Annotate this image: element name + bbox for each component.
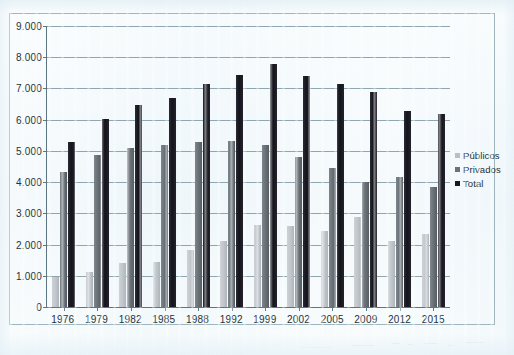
x-tick-mark	[64, 307, 65, 311]
bar-publicos	[52, 277, 59, 307]
bar-privados	[396, 177, 403, 307]
x-axis-tick-label: 1999	[248, 314, 282, 325]
bar-total	[203, 84, 210, 307]
x-axis-tick-label: 2012	[383, 314, 417, 325]
y-axis-tick-label: 3.000	[16, 208, 42, 219]
bar-group	[282, 26, 316, 307]
bar-privados	[94, 155, 101, 307]
bar-group	[349, 26, 383, 307]
bar-privados	[295, 157, 302, 308]
y-axis-tick-label: 4.000	[16, 177, 42, 188]
bar-total	[303, 76, 310, 307]
bar-group	[114, 26, 148, 307]
bar-publicos	[86, 272, 93, 307]
grouped-bar-chart: 9.0008.0007.0006.0005.0004.0003.0002.000…	[0, 0, 514, 355]
bar-group	[148, 26, 182, 307]
x-axis-tick-label: 2009	[349, 314, 383, 325]
gridline	[47, 307, 450, 308]
scan-artifact	[448, 345, 455, 346]
y-axis-tick-label: 2.000	[16, 239, 42, 250]
bar-privados	[127, 148, 134, 307]
y-axis-tick-label: 7.000	[16, 83, 42, 94]
x-tick-mark	[165, 307, 166, 311]
y-axis-tick-label: 0	[36, 302, 42, 313]
y-tick-mark	[43, 307, 47, 308]
y-axis-tick-label: 8.000	[16, 52, 42, 63]
legend-swatch-icon	[455, 153, 460, 158]
bar-total	[68, 142, 75, 307]
y-axis-tick-label: 1.000	[16, 270, 42, 281]
bar-privados	[228, 141, 235, 307]
x-tick-mark	[232, 307, 233, 311]
bar-total	[169, 98, 176, 307]
x-tick-mark	[332, 307, 333, 311]
legend-item-publicos[interactable]: Públicos	[455, 148, 511, 162]
bar-group	[215, 26, 249, 307]
legend-item-total[interactable]: Total	[455, 176, 511, 190]
bar-publicos	[388, 241, 395, 308]
bar-privados	[329, 168, 336, 307]
scan-artifact	[424, 343, 437, 344]
x-tick-mark	[400, 307, 401, 311]
bar-publicos	[422, 234, 429, 307]
bar-group	[181, 26, 215, 307]
bar-total	[337, 84, 344, 307]
scan-artifact	[392, 343, 401, 344]
bar-group	[81, 26, 115, 307]
bar-total	[135, 105, 142, 307]
bar-group	[47, 26, 81, 307]
x-axis-tick-label: 1982	[113, 314, 147, 325]
x-tick-mark	[366, 307, 367, 311]
bar-total	[370, 92, 377, 307]
scanned-page: 9.0008.0007.0006.0005.0004.0003.0002.000…	[0, 0, 514, 355]
bar-publicos	[220, 241, 227, 307]
x-axis-tick-label: 2005	[315, 314, 349, 325]
bar-total	[438, 114, 445, 307]
bar-total	[102, 119, 109, 307]
scan-artifact	[300, 347, 330, 348]
x-tick-mark	[97, 307, 98, 311]
bar-total	[404, 111, 411, 307]
legend-label: Privados	[463, 164, 501, 175]
x-axis-tick-label: 2002	[282, 314, 316, 325]
y-axis-tick-label: 6.000	[16, 114, 42, 125]
scan-artifact	[466, 342, 484, 343]
chart-legend: PúblicosPrivadosTotal	[455, 148, 511, 190]
x-axis-tick-label: 1985	[147, 314, 181, 325]
bar-group	[383, 26, 417, 307]
plot-area: 9.0008.0007.0006.0005.0004.0003.0002.000…	[46, 26, 450, 308]
bar-privados	[161, 145, 168, 307]
bar-group	[316, 26, 350, 307]
scan-artifact	[352, 345, 374, 346]
bar-privados	[430, 187, 437, 307]
bar-privados	[195, 142, 202, 308]
bar-privados	[60, 172, 67, 307]
bar-privados	[362, 182, 369, 307]
legend-swatch-icon	[455, 167, 460, 172]
bar-group	[416, 26, 450, 307]
x-axis-tick-label: 1976	[46, 314, 80, 325]
legend-swatch-icon	[455, 181, 460, 186]
y-axis-tick-label: 9.000	[16, 21, 42, 32]
legend-label: Públicos	[463, 150, 500, 161]
bar-publicos	[354, 217, 361, 307]
x-tick-mark	[299, 307, 300, 311]
x-tick-mark	[433, 307, 434, 311]
x-tick-mark	[131, 307, 132, 311]
legend-label: Total	[463, 178, 484, 189]
bar-publicos	[287, 226, 294, 307]
bar-publicos	[119, 263, 126, 307]
bar-privados	[262, 145, 269, 307]
x-tick-mark	[265, 307, 266, 311]
bar-publicos	[187, 250, 194, 307]
x-axis-tick-label: 1988	[181, 314, 215, 325]
bar-publicos	[254, 225, 261, 307]
x-axis-tick-label: 1979	[80, 314, 114, 325]
bar-publicos	[153, 262, 160, 307]
y-axis-tick-label: 5.000	[16, 145, 42, 156]
bar-group	[248, 26, 282, 307]
legend-item-privados[interactable]: Privados	[455, 162, 511, 176]
bar-total	[236, 75, 243, 307]
x-axis-tick-label: 1992	[214, 314, 248, 325]
bar-publicos	[321, 231, 328, 308]
